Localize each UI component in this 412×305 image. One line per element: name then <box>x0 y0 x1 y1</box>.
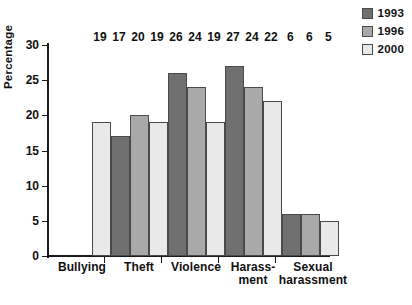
legend-item-2000[interactable]: 2000 <box>362 44 404 55</box>
bar-value-violence-1993: 26 <box>169 31 182 43</box>
bar-sexual-harassment-2000[interactable] <box>320 221 339 256</box>
bar-value-sexual-harassment-2000: 5 <box>325 31 332 43</box>
bar-slot-violence-1993: 26 <box>168 45 187 256</box>
x-label-sexual-harassment-line2: harassment <box>273 274 353 287</box>
legend-swatch-1996 <box>362 26 373 37</box>
bar-slot-harassment-1996: 24 <box>244 45 263 256</box>
bar-value-violence-2000: 19 <box>207 31 220 43</box>
bar-violence-1996[interactable] <box>187 87 206 256</box>
y-tick-label-10: 10 <box>26 180 39 192</box>
bar-slot-violence-1996: 24 <box>187 45 206 256</box>
legend-item-1993[interactable]: 1993 <box>362 8 404 19</box>
bar-value-harassment-1993: 27 <box>226 31 239 43</box>
bar-slot-sexual-harassment-2000: 5 <box>320 45 339 256</box>
bar-value-harassment-2000: 22 <box>264 31 277 43</box>
legend-swatch-1993 <box>362 8 373 19</box>
x-label-sexual-harassment: Sexual harassment <box>273 261 353 287</box>
plot-area: 0 5 10 15 20 25 30 19 <box>47 45 330 256</box>
y-axis-title-text: Percentage <box>2 2 14 112</box>
bar-value-theft-2000: 19 <box>150 31 163 43</box>
bar-value-harassment-1996: 24 <box>245 31 258 43</box>
legend-label-1996: 1996 <box>378 26 404 37</box>
bar-slot-sexual-harassment-1993: 6 <box>282 45 301 256</box>
bar-slot-bullying-1993 <box>54 45 73 256</box>
legend-item-1996[interactable]: 1996 <box>362 26 404 37</box>
y-tick-label-30: 30 <box>26 39 39 51</box>
bar-theft-1996[interactable] <box>130 115 149 256</box>
legend-swatch-2000 <box>362 44 373 55</box>
y-tick-label-0: 0 <box>32 250 39 262</box>
bar-slot-sexual-harassment-1996: 6 <box>301 45 320 256</box>
bar-chart: 1993 1996 2000 Percentage 0 5 10 15 20 2… <box>0 0 412 305</box>
bar-harassment-1996[interactable] <box>244 87 263 256</box>
bar-value-violence-1996: 24 <box>188 31 201 43</box>
bar-group-sexual-harassment: 6 6 5 <box>275 45 345 256</box>
bar-value-sexual-harassment-1993: 6 <box>287 31 294 43</box>
bar-value-theft-1993: 17 <box>112 31 125 43</box>
y-tick-label-25: 25 <box>26 74 39 86</box>
bar-value-bullying-2000: 19 <box>93 31 106 43</box>
bar-theft-1993[interactable] <box>111 136 130 256</box>
bar-value-sexual-harassment-1996: 6 <box>306 31 313 43</box>
y-axis-title: Percentage <box>2 2 14 112</box>
bar-sexual-harassment-1993[interactable] <box>282 214 301 256</box>
legend-label-2000: 2000 <box>378 44 404 55</box>
y-tick-label-5: 5 <box>32 215 39 227</box>
bar-slot-theft-1993: 17 <box>111 45 130 256</box>
chart-legend: 1993 1996 2000 <box>362 8 404 55</box>
bar-slot-theft-1996: 20 <box>130 45 149 256</box>
legend-label-1993: 1993 <box>378 8 404 19</box>
bar-violence-1993[interactable] <box>168 73 187 256</box>
bar-sexual-harassment-1996[interactable] <box>301 214 320 256</box>
y-tick-label-20: 20 <box>26 109 39 121</box>
bar-value-theft-1996: 20 <box>131 31 144 43</box>
bar-harassment-1993[interactable] <box>225 66 244 256</box>
y-tick-label-15: 15 <box>26 145 39 157</box>
y-tick-0 <box>42 256 47 257</box>
bar-slot-bullying-1996 <box>73 45 92 256</box>
bar-slot-harassment-1993: 27 <box>225 45 244 256</box>
